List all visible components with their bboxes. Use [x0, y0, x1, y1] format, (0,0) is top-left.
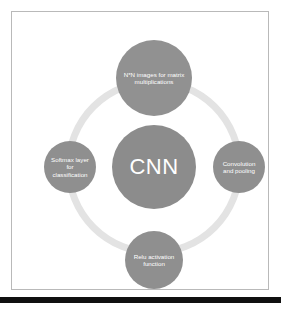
slide-frame: N*N images for matrix multiplications Co… [11, 11, 269, 290]
diagram-node-label: Relu activation function [125, 253, 183, 268]
diagram-node-matrix-multiplications[interactable]: N*N images for matrix multiplications [116, 40, 192, 116]
diagram-node-convolution-and-pooling[interactable]: Convolution and pooling [213, 141, 265, 193]
diagram-node-softmax-layer-for-classification[interactable]: Softmax layer for classification [44, 141, 96, 193]
diagram-node-label: N*N images for matrix multiplications [116, 71, 192, 86]
diagram-node-label: Softmax layer for classification [44, 156, 96, 178]
diagram-center-hub-cnn[interactable]: CNN [112, 125, 196, 209]
diagram-node-label: Convolution and pooling [213, 160, 265, 175]
diagram-center-label: CNN [125, 154, 182, 180]
diagram-node-relu-activation-function[interactable]: Relu activation function [125, 231, 183, 289]
bottom-band [0, 297, 281, 303]
